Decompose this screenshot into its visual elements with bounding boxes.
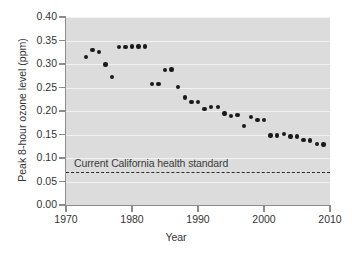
gridline (66, 17, 330, 18)
y-tick-label: 0.40 (23, 10, 57, 22)
x-tick-label: 1970 (44, 213, 88, 225)
y-tick-label: 0.20 (23, 104, 57, 116)
data-point (156, 82, 160, 86)
data-point (117, 45, 121, 49)
y-tick (59, 16, 65, 17)
health-standard-label: Current California health standard (74, 157, 228, 169)
data-point (176, 85, 180, 89)
ozone-scatter-chart: Current California health standard 0.000… (0, 0, 352, 254)
data-point (150, 82, 154, 86)
y-tick-label: 0.30 (23, 57, 57, 69)
data-point (183, 95, 187, 99)
x-tick (329, 206, 330, 212)
x-tick (263, 206, 264, 212)
data-point (308, 138, 312, 142)
data-point (288, 134, 292, 138)
y-axis-line (65, 16, 66, 206)
data-point (97, 50, 101, 54)
x-tick-label: 1990 (176, 213, 220, 225)
gridline (66, 111, 330, 112)
data-point (315, 142, 319, 146)
data-point (84, 55, 88, 59)
plot-area: Current California health standard (66, 17, 330, 205)
data-point (282, 132, 286, 136)
data-point (169, 67, 173, 71)
data-point (130, 44, 134, 48)
data-point (242, 124, 246, 128)
data-point (321, 142, 325, 146)
data-point (189, 100, 193, 104)
x-tick-label: 2000 (242, 213, 286, 225)
data-point (202, 107, 206, 111)
x-axis-title: Year (0, 231, 352, 243)
data-point (222, 111, 226, 115)
y-tick-label: 0.35 (23, 34, 57, 46)
y-tick (59, 157, 65, 158)
data-point (136, 44, 140, 48)
data-point (110, 75, 114, 79)
y-tick (59, 134, 65, 135)
data-point (262, 118, 266, 122)
gridline (66, 182, 330, 183)
y-tick-label: 0.00 (23, 198, 57, 210)
x-tick-label: 1980 (110, 213, 154, 225)
x-tick (65, 206, 66, 212)
y-tick-label: 0.15 (23, 128, 57, 140)
data-point (268, 133, 272, 137)
data-point (163, 68, 167, 72)
data-point (209, 105, 213, 109)
data-point (255, 118, 259, 122)
y-tick (59, 40, 65, 41)
data-point (143, 44, 147, 48)
y-tick (59, 63, 65, 64)
data-point (295, 134, 299, 138)
y-tick (59, 181, 65, 182)
x-tick (131, 206, 132, 212)
gridline (66, 41, 330, 42)
data-point (103, 62, 107, 66)
y-tick-label: 0.05 (23, 175, 57, 187)
y-tick (59, 204, 65, 205)
x-tick (197, 206, 198, 212)
data-point (249, 115, 253, 119)
data-point (275, 133, 279, 137)
y-tick (59, 110, 65, 111)
data-point (196, 100, 200, 104)
data-point (90, 48, 94, 52)
data-point (229, 114, 233, 118)
gridline (66, 88, 330, 89)
data-point (216, 105, 220, 109)
y-tick-label: 0.25 (23, 81, 57, 93)
y-axis-title: Peak 8-hour ozone level (ppm) (16, 10, 28, 210)
x-tick-label: 2010 (308, 213, 352, 225)
data-point (301, 138, 305, 142)
data-point (235, 113, 239, 117)
data-point (123, 45, 127, 49)
y-tick (59, 87, 65, 88)
health-standard-line (66, 172, 330, 173)
y-tick-label: 0.10 (23, 151, 57, 163)
